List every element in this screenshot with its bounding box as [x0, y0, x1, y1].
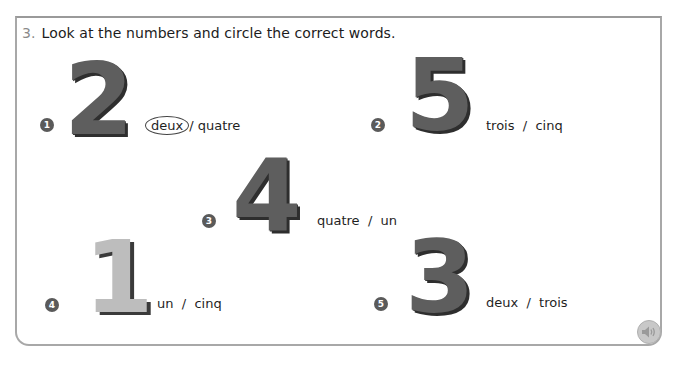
separator: /	[526, 295, 530, 310]
digit-1: 1	[84, 228, 154, 328]
choices-item-5: deux / trois	[486, 295, 568, 310]
separator: /	[189, 118, 193, 133]
choice-trois[interactable]: trois	[539, 295, 568, 310]
item-badge-5: 5	[374, 297, 388, 311]
separator: /	[523, 118, 527, 133]
choice-quatre[interactable]: quatre	[317, 213, 360, 228]
digit-2: 2	[64, 50, 132, 150]
item-badge-1: 1	[40, 118, 54, 132]
choice-cinq[interactable]: cinq	[535, 118, 562, 133]
separator: /	[368, 213, 372, 228]
separator: /	[182, 296, 186, 311]
item-badge-3: 3	[202, 214, 216, 228]
choice-deux[interactable]: deux	[486, 295, 518, 310]
item-badge-4: 4	[45, 298, 59, 312]
choice-trois[interactable]: trois	[486, 118, 515, 133]
digit-3: 3	[405, 228, 475, 328]
choice-cinq[interactable]: cinq	[194, 296, 221, 311]
digit-5: 5	[405, 46, 475, 146]
item-badge-2: 2	[371, 118, 385, 132]
choice-un[interactable]: un	[157, 296, 173, 311]
choices-item-3: quatre / un	[317, 213, 397, 228]
exercise-number: 3.	[22, 25, 36, 41]
choice-deux-circled[interactable]: deux	[145, 116, 189, 135]
choice-quatre[interactable]: quatre	[198, 118, 241, 133]
choices-item-4: un / cinq	[157, 296, 222, 311]
exercise-instruction: 3.Look at the numbers and circle the cor…	[22, 25, 396, 41]
choices-item-2: trois / cinq	[486, 118, 563, 133]
choice-un[interactable]: un	[381, 213, 397, 228]
instruction-text: Look at the numbers and circle the corre…	[42, 25, 396, 41]
digit-4: 4	[232, 146, 302, 246]
speaker-icon	[641, 325, 657, 339]
audio-play-button[interactable]	[637, 320, 661, 344]
choices-item-1: deux/ quatre	[150, 118, 240, 133]
